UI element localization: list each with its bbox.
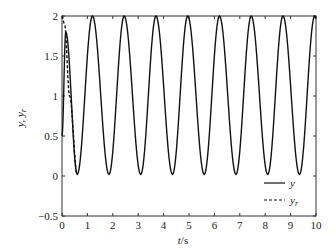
x-tick-label: 3: [135, 219, 141, 231]
x-tick-label: 7: [237, 219, 243, 231]
legend-yr-label: yr: [289, 194, 299, 208]
plot-frame: [62, 16, 316, 216]
legend-y-label: y: [289, 177, 295, 189]
x-tick-label: 5: [186, 219, 192, 231]
series-y-line: [62, 16, 316, 174]
x-tick-label: 9: [288, 219, 294, 231]
line-chart: 012345678910 −0.500.511.52 y yr t/s y, y…: [0, 0, 336, 248]
y-tick-label: 2: [53, 10, 59, 22]
y-tick-label: 0: [53, 170, 59, 182]
x-tick-label: 10: [311, 219, 323, 231]
x-tick-label: 4: [161, 219, 167, 231]
x-tick-label: 8: [262, 219, 268, 231]
y-axis-label: y, yr: [14, 108, 28, 128]
x-tick-label: 2: [110, 219, 116, 231]
y-tick-label: 0.5: [44, 130, 58, 142]
x-tick-label: 1: [85, 219, 91, 231]
x-tick-label: 6: [212, 219, 218, 231]
y-tick-label: −0.5: [38, 210, 58, 222]
y-tick-label: 1.5: [44, 50, 58, 62]
x-axis-label: t/s: [178, 234, 188, 246]
x-tick-label: 0: [59, 219, 65, 231]
x-axis-ticks: 012345678910: [59, 16, 322, 231]
y-tick-label: 1: [53, 90, 59, 102]
legend: y yr: [264, 177, 299, 208]
